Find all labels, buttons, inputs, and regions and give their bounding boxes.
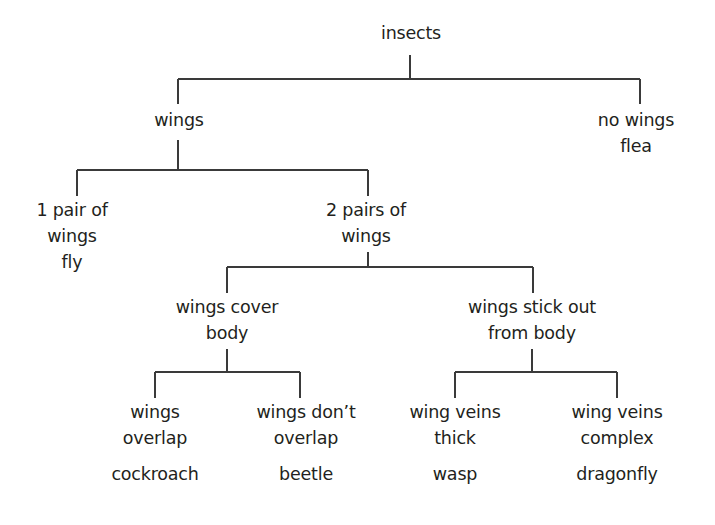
node-label: wings [36, 223, 107, 249]
node-label: wings stick out [468, 294, 596, 320]
node-example-beetle: beetle [256, 461, 355, 487]
node-example-dragonfly: dragonfly [571, 461, 662, 487]
node-label: wings [111, 399, 198, 425]
node-wings-stick-out: wings stick out from body [468, 294, 596, 346]
insect-dichotomous-key: insects wings no wings flea 1 pair of wi… [0, 0, 715, 525]
node-label: overlap [111, 425, 198, 451]
node-label: overlap [256, 425, 355, 451]
node-label: body [176, 320, 279, 346]
node-wings-dont-overlap: wings don’t overlap beetle [256, 399, 355, 487]
node-no-wings: no wings flea [598, 107, 674, 159]
node-wings-overlap: wings overlap cockroach [111, 399, 198, 487]
node-label: complex [571, 425, 662, 451]
node-wings: wings [154, 107, 204, 133]
node-label: insects [381, 20, 441, 46]
node-wing-veins-complex: wing veins complex dragonfly [571, 399, 662, 487]
node-label: no wings [598, 107, 674, 133]
node-label: wings don’t [256, 399, 355, 425]
node-label: from body [468, 320, 596, 346]
node-label: 1 pair of [36, 197, 107, 223]
node-example-wasp: wasp [409, 461, 500, 487]
node-example-cockroach: cockroach [111, 461, 198, 487]
node-two-pairs-of-wings: 2 pairs of wings [326, 197, 406, 249]
node-wings-cover-body: wings cover body [176, 294, 279, 346]
node-insects: insects [381, 20, 441, 46]
node-label: wing veins [409, 399, 500, 425]
node-one-pair-of-wings: 1 pair of wings fly [36, 197, 107, 275]
node-example-flea: flea [598, 133, 674, 159]
node-label: thick [409, 425, 500, 451]
node-label: wings [326, 223, 406, 249]
node-label: wings [154, 107, 204, 133]
node-label: wings cover [176, 294, 279, 320]
node-label: wing veins [571, 399, 662, 425]
node-label: 2 pairs of [326, 197, 406, 223]
node-example-fly: fly [36, 249, 107, 275]
node-wing-veins-thick: wing veins thick wasp [409, 399, 500, 487]
